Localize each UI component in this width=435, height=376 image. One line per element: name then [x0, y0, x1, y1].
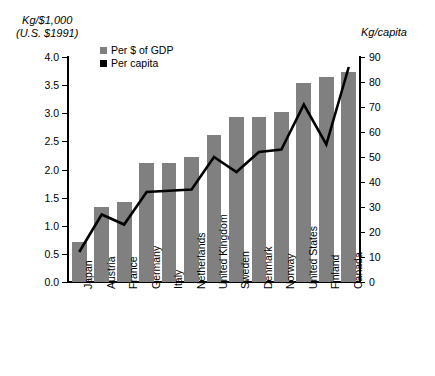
left-tick-label-2.5: 2.5 [44, 136, 59, 147]
left-tick-label-3.0: 3.0 [44, 108, 59, 119]
chart-container: Kg/$1,000 (U.S. $1991) Kg/capita Per $ o… [0, 0, 435, 376]
left-tick-label-0.0: 0.0 [44, 277, 59, 288]
right-tick-40 [360, 182, 365, 183]
right-tick-90 [360, 57, 365, 58]
right-tick-70 [360, 107, 365, 108]
right-tick-label-10: 10 [369, 252, 381, 263]
left-tick-label-0.5: 0.5 [44, 249, 59, 260]
right-tick-label-0: 0 [369, 277, 375, 288]
right-tick-label-60: 60 [369, 127, 381, 138]
right-tick-label-80: 80 [369, 77, 381, 88]
legend-label-0: Per $ of GDP [111, 45, 173, 56]
right-tick-label-90: 90 [369, 52, 381, 63]
left-tick-label-1.5: 1.5 [44, 193, 59, 204]
category-label-netherlands: Netherlands [196, 232, 207, 289]
left-tick-3.0 [62, 113, 67, 114]
left-tick-4.0 [62, 57, 67, 58]
category-label-italy: Italy [173, 270, 184, 289]
category-label-canada: Canada [353, 252, 364, 289]
right-tick-50 [360, 157, 365, 158]
category-label-japan: Japan [83, 260, 94, 289]
category-label-united-states: United States [308, 226, 319, 289]
category-label-austria: Austria [106, 256, 117, 289]
category-label-germany: Germany [151, 246, 162, 289]
legend-swatch-icon-0 [100, 47, 107, 54]
category-label-denmark: Denmark [263, 246, 274, 289]
right-tick-80 [360, 82, 365, 83]
left-tick-label-1.0: 1.0 [44, 221, 59, 232]
right-tick-20 [360, 232, 365, 233]
category-label-norway: Norway [285, 253, 296, 289]
left-axis-title: Kg/$1,000 (U.S. $1991) [16, 14, 78, 40]
left-axis-title-line2: (U.S. $1991) [16, 27, 78, 40]
left-tick-1.0 [62, 226, 67, 227]
right-tick-label-70: 70 [369, 102, 381, 113]
category-label-sweden: Sweden [240, 251, 251, 289]
right-tick-label-20: 20 [369, 227, 381, 238]
right-tick-60 [360, 132, 365, 133]
left-tick-0.0 [62, 282, 67, 283]
right-tick-label-30: 30 [369, 202, 381, 213]
category-label-france: France [128, 256, 139, 289]
plot-area: 0.00.51.01.52.02.53.03.54.0 010203040506… [68, 57, 360, 282]
left-tick-3.5 [62, 85, 67, 86]
right-axis-title: Kg/capita [361, 26, 407, 39]
left-tick-label-3.5: 3.5 [44, 80, 59, 91]
category-label-finland: Finland [330, 255, 341, 289]
left-tick-0.5 [62, 254, 67, 255]
left-tick-label-2.0: 2.0 [44, 165, 59, 176]
left-tick-1.5 [62, 198, 67, 199]
left-tick-label-4.0: 4.0 [44, 52, 59, 63]
right-tick-30 [360, 207, 365, 208]
right-tick-label-40: 40 [369, 177, 381, 188]
left-tick-2.5 [62, 141, 67, 142]
category-label-united-kingdom: United Kingdom [218, 214, 229, 289]
left-axis-title-line1: Kg/$1,000 [16, 14, 78, 27]
right-tick-label-50: 50 [369, 152, 381, 163]
left-tick-2.0 [62, 170, 67, 171]
legend-item-0: Per $ of GDP [100, 45, 173, 56]
